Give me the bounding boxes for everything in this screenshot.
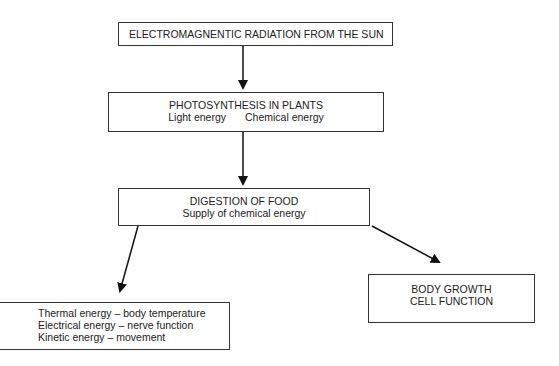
- photosynthesis-item-chemical: Chemical energy: [245, 111, 324, 123]
- digestion-subtitle: Supply of chemical energy: [119, 207, 369, 219]
- arrow-digestion-to-growth: [372, 226, 439, 262]
- node-energy-uses: Thermal energy – body temperature Electr…: [0, 302, 230, 350]
- digestion-title: DIGESTION OF FOOD: [119, 195, 369, 207]
- node-digestion: DIGESTION OF FOOD Supply of chemical ene…: [118, 188, 370, 226]
- arrow-digestion-to-energy-uses: [120, 226, 138, 291]
- growth-line-cell: CELL FUNCTION: [369, 295, 534, 307]
- photosynthesis-items: Light energy Chemical energy: [109, 111, 383, 123]
- growth-line-body: BODY GROWTH: [369, 283, 534, 295]
- energy-use-kinetic: Kinetic energy – movement: [38, 331, 229, 343]
- node-photosynthesis: PHOTOSYNTHESIS IN PLANTS Light energy Ch…: [108, 92, 384, 132]
- photosynthesis-title: PHOTOSYNTHESIS IN PLANTS: [109, 99, 383, 111]
- node-sun-radiation: ELECTROMAGNENTIC RADIATION FROM THE SUN: [118, 22, 393, 46]
- photosynthesis-item-light: Light energy: [168, 111, 226, 123]
- energy-use-thermal: Thermal energy – body temperature: [38, 307, 229, 319]
- energy-use-electrical: Electrical energy – nerve function: [38, 319, 229, 331]
- node-sun-label: ELECTROMAGNENTIC RADIATION FROM THE SUN: [129, 28, 392, 40]
- node-growth: BODY GROWTH CELL FUNCTION: [368, 274, 535, 323]
